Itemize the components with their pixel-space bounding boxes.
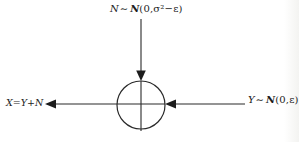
signal-distribution-letter: N	[265, 94, 275, 105]
output-label: X=Y+N	[6, 96, 43, 109]
signal-tilde: ∼	[255, 94, 265, 105]
left-arrowhead-icon	[45, 99, 56, 108]
adder-block-diagram: N∼N(0,σ²−ε) X=Y+N Y∼N(0,ε)	[0, 0, 299, 142]
noise-variable: N	[110, 3, 119, 14]
signal-input-label: Y∼N(0,ε)	[248, 93, 299, 106]
noise-tilde: ∼	[119, 3, 129, 14]
down-arrowhead-icon	[136, 71, 146, 82]
signal-arrowhead-icon	[165, 99, 176, 108]
diagram-graphics	[0, 0, 299, 142]
noise-parameters: (0,σ²−ε)	[139, 3, 182, 14]
output-expression: X=Y+N	[6, 97, 43, 108]
noise-distribution-letter: N	[129, 3, 139, 14]
signal-variable: Y	[248, 94, 255, 105]
signal-parameters: (0,ε)	[275, 94, 299, 105]
noise-input-label: N∼N(0,σ²−ε)	[110, 2, 183, 15]
